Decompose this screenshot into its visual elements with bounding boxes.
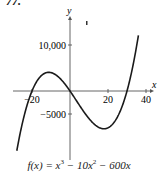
y-axis-arrow-icon [68,16,72,20]
x-tick-label: −20 [24,94,40,105]
x-axis-label: x [151,79,157,90]
ticks: −20204010,000−5000 [24,40,151,120]
x-tick-label: 20 [103,94,113,105]
caption-mid: − 10x [64,159,93,171]
function-graph: xy −20204010,000−5000 [0,0,158,178]
axes: xy [13,5,157,160]
caption-prefix: f(x) = x [27,159,60,171]
function-caption: f(x) = x3 − 10x2 − 600x [0,158,158,171]
caption-suffix: − 600x [96,159,130,171]
y-tick-label: −5000 [40,109,66,120]
stray-mark [86,21,88,25]
y-tick-label: 10,000 [39,40,67,51]
y-axis-label: y [66,5,72,16]
x-tick-label: 40 [141,94,151,105]
